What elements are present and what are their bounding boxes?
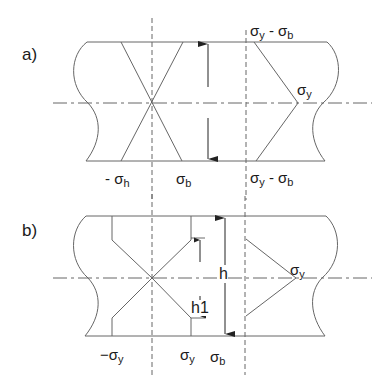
panel-b-label-neg-sigma-y: −σy	[100, 347, 124, 362]
sigma-main: σ	[290, 261, 299, 278]
sigma-main: σ	[250, 22, 259, 39]
sigma-main: −σ	[100, 346, 118, 363]
sigma-main: σ	[250, 169, 259, 186]
panel-a-residual-triangle	[254, 42, 298, 161]
sigma-sub: b	[287, 29, 293, 41]
sigma-sub: y	[118, 353, 124, 365]
panel-a-drawing	[53, 18, 372, 200]
sigma-sub: b	[219, 355, 225, 367]
panel-a-neg-sigma-h-main: - σ	[105, 170, 123, 187]
panel-b-label-sigma-y: σy	[180, 347, 195, 362]
panel-a-label: a)	[22, 46, 37, 63]
sigma-sub: y	[259, 29, 265, 41]
panel-a-sigma-b-main: σ	[176, 170, 185, 187]
panel-a-label-top-right: σy - σb	[250, 23, 293, 38]
panel-b-dim-h1-label: h1	[190, 300, 210, 316]
panel-a-neg-sigma-h-sub: h	[123, 177, 129, 189]
stress-distribution-diagram	[0, 0, 390, 382]
panel-b-label-apex-sigma-y: σy	[290, 262, 305, 277]
sigma-sub: b	[287, 176, 293, 188]
sigma-main: σ	[297, 81, 306, 98]
panel-a-left-break	[74, 42, 99, 161]
panel-a-label-sigma-b: σb	[176, 171, 191, 186]
panel-a-label-neg-sigma-h: - σh	[105, 171, 130, 186]
sigma-main: - σ	[265, 22, 288, 39]
panel-a-label-sigma-y: σy	[297, 82, 312, 97]
panel-b-stress-profile-left	[112, 216, 152, 336]
panel-a-sigma-b-sub: b	[185, 177, 191, 189]
sigma-sub: y	[259, 176, 265, 188]
panel-b-label-sigma-b: σb	[210, 349, 225, 364]
panel-b-stress-profile-right	[152, 216, 191, 336]
sigma-main: σ	[180, 346, 189, 363]
panel-b-label: b)	[22, 222, 37, 239]
panel-b-left-break	[74, 216, 99, 336]
sigma-sub: y	[299, 268, 305, 280]
panel-a-label-bottom-right: σy - σb	[250, 170, 293, 185]
panel-b-dim-h-label: h	[219, 265, 228, 283]
sigma-main: - σ	[265, 169, 288, 186]
panel-a-right-break	[313, 42, 339, 161]
sigma-main: σ	[210, 348, 219, 365]
panel-b-right-break	[313, 216, 338, 336]
sigma-sub: y	[189, 353, 195, 365]
sigma-sub: y	[306, 88, 312, 100]
